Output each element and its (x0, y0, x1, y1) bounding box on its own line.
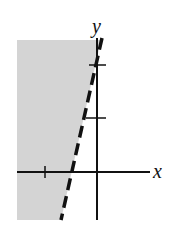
y-axis-label: y (90, 15, 101, 38)
inequality-graph: x y (0, 0, 179, 234)
shaded-region (17, 40, 101, 220)
x-axis-label: x (152, 160, 162, 182)
